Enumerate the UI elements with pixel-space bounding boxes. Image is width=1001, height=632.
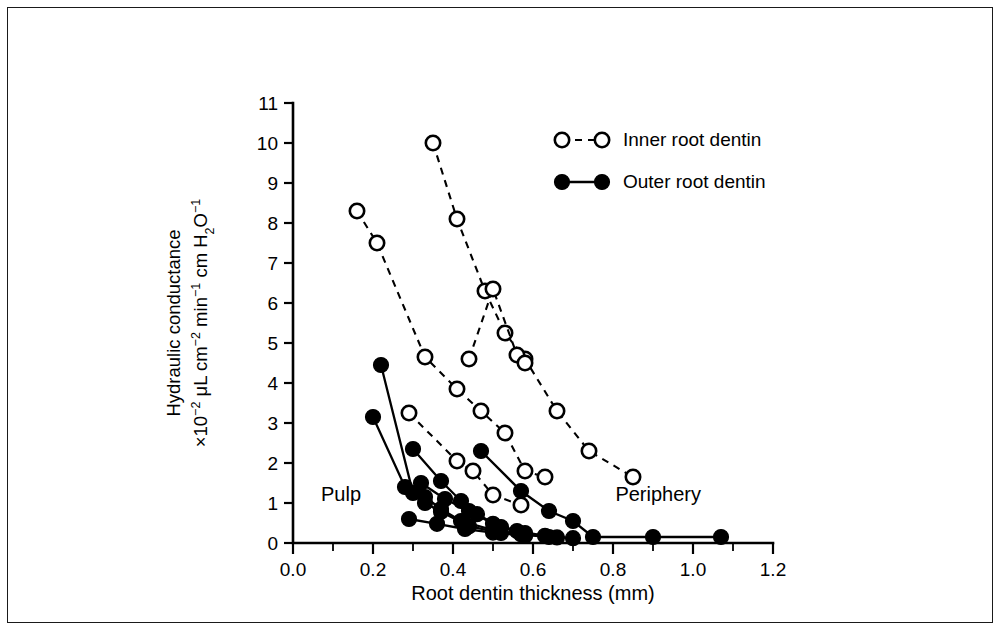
y-tick-label-11: 11 (258, 93, 278, 114)
legend-marker-filled (595, 175, 610, 190)
data-point-filled (486, 525, 501, 540)
data-point-filled (374, 358, 389, 373)
data-point-filled (402, 512, 417, 527)
curve-line (433, 143, 633, 477)
data-point-filled (414, 476, 429, 491)
data-point-open (486, 282, 500, 296)
y-tick-label-10: 10 (257, 133, 278, 154)
x-tick-label-1.2: 1.2 (760, 559, 786, 580)
y-tick-label-6: 6 (267, 293, 278, 314)
x-tick-label-0.2: 0.2 (360, 559, 386, 580)
data-point-filled (406, 442, 421, 457)
data-point-open (538, 470, 552, 484)
data-point-filled (586, 530, 601, 545)
legend-group: Inner root dentinOuter root dentin (555, 129, 766, 192)
y-tick-label-8: 8 (267, 213, 278, 234)
curve-inner-2 (426, 136, 640, 484)
annotations-group: PulpPeriphery (321, 483, 701, 505)
data-point-open (450, 382, 464, 396)
x-tick-label-0.8: 0.8 (600, 559, 626, 580)
data-point-open (450, 212, 464, 226)
chart-canvas: 012345678910110.00.20.40.60.81.01.2 Pulp… (0, 0, 1001, 632)
data-point-open (474, 404, 488, 418)
data-point-filled (646, 530, 661, 545)
curve-inner-4 (462, 282, 532, 370)
legend-marker-filled (555, 175, 570, 190)
y-tick-label-5: 5 (267, 333, 278, 354)
y-axis-title-line1: Hydraulic conductance (163, 229, 184, 416)
data-point-open (402, 406, 416, 420)
periphery-label: Periphery (615, 483, 701, 505)
data-point-open (582, 444, 596, 458)
pulp-label: Pulp (321, 483, 361, 505)
y-tick-label-7: 7 (267, 253, 278, 274)
data-point-filled (550, 530, 565, 545)
data-point-open (518, 464, 532, 478)
series-inner (350, 136, 640, 512)
data-point-open (418, 350, 432, 364)
legend-label: Inner root dentin (623, 129, 761, 150)
y-tick-label-4: 4 (267, 373, 278, 394)
data-point-filled (542, 504, 557, 519)
x-tick-label-0.0: 0.0 (280, 559, 306, 580)
data-point-filled (514, 484, 529, 499)
curve-line (357, 211, 545, 477)
x-tick-label-1.0: 1.0 (680, 559, 706, 580)
legend-marker-open (595, 133, 609, 147)
y-tick-label-0: 0 (267, 533, 278, 554)
series-outer (366, 358, 729, 546)
y-tick-label-3: 3 (267, 413, 278, 434)
y-tick-label-9: 9 (267, 173, 278, 194)
data-point-open (370, 236, 384, 250)
data-point-open (426, 136, 440, 150)
data-point-filled (366, 410, 381, 425)
y-axis-title-line2: ×10−2 μL cm−2 min−1 cm H2O−1 (189, 199, 217, 448)
data-point-filled (518, 528, 533, 543)
legend-marker-open (555, 133, 569, 147)
x-tick-label-0.4: 0.4 (440, 559, 467, 580)
legend-outer-root-dentin[interactable]: Outer root dentin (555, 171, 766, 192)
data-point-filled (566, 531, 581, 546)
data-point-open (350, 204, 364, 218)
data-point-open (462, 352, 476, 366)
data-point-open (466, 464, 480, 478)
data-point-open (550, 404, 564, 418)
data-point-filled (418, 490, 433, 505)
data-point-filled (458, 522, 473, 537)
data-point-filled (462, 504, 477, 519)
data-point-filled (566, 514, 581, 529)
data-point-filled (434, 474, 449, 489)
chart-axes-lines (293, 103, 773, 543)
legend-label: Outer root dentin (623, 171, 766, 192)
data-point-filled (474, 444, 489, 459)
data-point-open (514, 498, 528, 512)
data-point-open (450, 454, 464, 468)
data-point-filled (398, 480, 413, 495)
data-point-open (486, 488, 500, 502)
figure-container: 012345678910110.00.20.40.60.81.01.2 Pulp… (0, 0, 1001, 632)
data-point-filled (430, 516, 445, 531)
data-point-open (518, 356, 532, 370)
data-point-filled (714, 530, 729, 545)
data-point-open (498, 426, 512, 440)
x-axis-title: Root dentin thickness (mm) (411, 582, 654, 604)
y-tick-label-2: 2 (267, 453, 278, 474)
data-point-filled (438, 492, 453, 507)
y-tick-label-1: 1 (267, 493, 278, 514)
curve-inner-1 (350, 204, 552, 484)
legend-inner-root-dentin[interactable]: Inner root dentin (555, 129, 762, 150)
x-tick-label-0.6: 0.6 (520, 559, 546, 580)
